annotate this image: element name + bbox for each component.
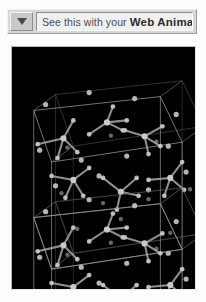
molecule-atom — [136, 193, 141, 198]
lattice-atom — [101, 201, 105, 205]
molecule-atom — [101, 176, 106, 181]
lattice-atom — [132, 203, 137, 208]
plugin-message-lead: See this with your — [42, 16, 127, 28]
lattice-atom — [188, 187, 192, 191]
plugin-message-field[interactable]: See this with your Web Animator — [36, 12, 193, 31]
molecule-atom — [71, 118, 76, 123]
molecule-center-atom — [70, 177, 76, 183]
molecule-atom — [180, 267, 185, 272]
molecule-center-atom — [141, 240, 147, 246]
lattice-atom — [174, 219, 179, 224]
molecule-atom — [146, 178, 151, 183]
molecule-center-atom — [167, 175, 173, 181]
molecule-atom — [111, 104, 116, 109]
lattice-atom — [79, 265, 84, 270]
molecule-atom — [101, 283, 106, 288]
molecule-center-atom — [60, 242, 66, 248]
molecule-atom — [49, 281, 54, 286]
lattice-atom — [132, 96, 137, 101]
molecule-atom — [87, 132, 92, 137]
lattice-atom — [43, 209, 48, 214]
molecule-atom — [87, 166, 92, 171]
molecule-center-atom — [60, 135, 66, 141]
molecule-center-atom — [104, 119, 110, 125]
molecule-atom — [55, 263, 60, 268]
molecule-atom — [35, 142, 40, 147]
lattice-atom — [87, 90, 92, 95]
molecule-atom — [87, 239, 92, 244]
lattice-atom — [75, 227, 79, 231]
lattice-atom — [119, 217, 123, 221]
lattice-atom — [184, 277, 189, 282]
lattice-atom — [43, 102, 48, 107]
lattice-atom — [37, 148, 42, 153]
molecule-atom — [111, 211, 116, 216]
molecule-atom — [180, 160, 185, 165]
molecule-atom — [158, 144, 163, 149]
molecule-atom — [146, 152, 151, 157]
lattice-atom — [166, 144, 171, 149]
molecule-atom — [124, 118, 129, 123]
molecule-center-atom — [118, 189, 124, 195]
plugin-message-bar: See this with your Web Animator — [7, 9, 197, 34]
lattice-atom — [174, 112, 179, 117]
molecule-center-atom — [167, 282, 173, 288]
lattice-atom — [168, 231, 172, 235]
molecule-atom — [160, 124, 165, 129]
molecule-atom — [134, 283, 139, 288]
lattice-atom — [37, 255, 42, 260]
molecule-atom — [81, 193, 86, 198]
molecule-atom — [63, 195, 68, 200]
lattice-atom — [146, 197, 150, 201]
lattice-atom — [59, 191, 63, 195]
lattice-atom — [53, 183, 58, 188]
lattice-atom — [109, 241, 113, 245]
molecule-atom — [146, 259, 151, 264]
molecule-atom — [160, 231, 165, 236]
plugin-preview-window: See this with your Web Animator — [0, 0, 206, 302]
molecule-atom — [87, 273, 92, 278]
lattice-atom — [124, 261, 129, 266]
lattice-atom — [65, 253, 69, 257]
molecule-atom — [158, 251, 163, 256]
molecule-atom — [162, 193, 167, 198]
lattice-atom — [87, 197, 92, 202]
menu-dropdown-button[interactable] — [10, 12, 33, 31]
molecule-atom — [122, 235, 127, 240]
molecule-atom — [124, 225, 129, 230]
lattice-atom — [124, 154, 129, 159]
triangle-down-icon — [17, 18, 27, 25]
molecule-atom — [122, 128, 127, 133]
lattice-atom — [184, 169, 189, 174]
molecule-atom — [134, 176, 139, 181]
molecule-center-atom — [141, 133, 147, 139]
lattice-atom — [109, 133, 113, 137]
molecule-atom — [49, 174, 54, 179]
molecule-atom — [75, 257, 80, 262]
lattice-atom — [166, 251, 171, 256]
molecule-center-atom — [104, 226, 110, 232]
molecule-atom — [35, 249, 40, 254]
lattice-atom — [65, 145, 69, 149]
molecule-scene — [12, 47, 195, 289]
molecule-atom — [75, 150, 80, 155]
plugin-brand-name: Web Animator — [130, 16, 193, 28]
molecule-atom — [71, 225, 76, 230]
molecule-atom — [55, 156, 60, 161]
lattice-atom — [79, 157, 84, 162]
molecule-viewport[interactable] — [11, 46, 196, 290]
